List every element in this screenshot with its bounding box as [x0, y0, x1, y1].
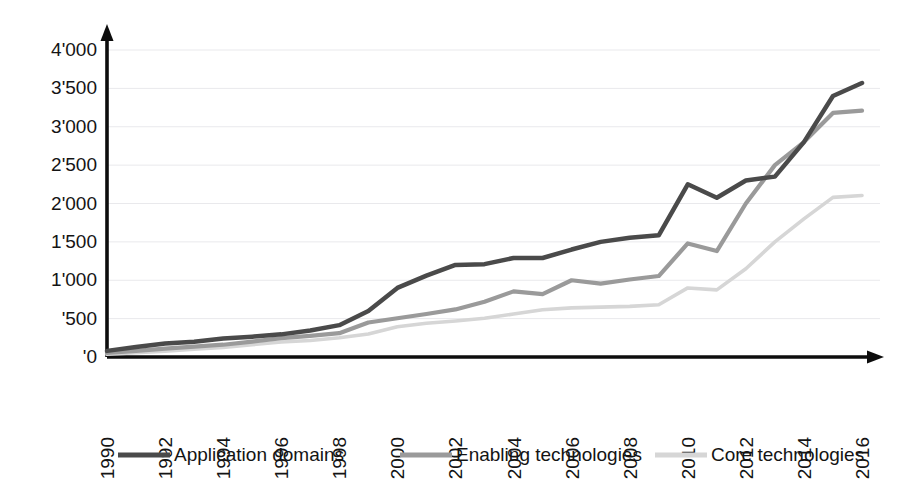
legend-label: Core technologies [711, 444, 864, 465]
y-axis-tick-label: 3'000 [51, 116, 97, 137]
x-axis-tick-label: 2000 [387, 437, 408, 479]
y-axis-tick-label: 2'000 [51, 193, 97, 214]
x-axis-tick-label: 1992 [155, 437, 176, 479]
legend-label: Application domains [174, 444, 344, 465]
chart-canvas: 4'0003'5003'0002'5002'0001'5001'000'500'… [0, 0, 904, 488]
y-axis-arrow-icon [101, 24, 114, 41]
y-axis-tick-label: 1'500 [51, 231, 97, 252]
y-axis-tick-label: 4'000 [51, 39, 97, 60]
y-axis-tick-label: '500 [62, 308, 97, 329]
series-group [107, 83, 862, 354]
y-axis-tick-label: 2'500 [51, 154, 97, 175]
x-axis-tick-label: 2010 [678, 437, 699, 479]
y-axis-tick-label: '0 [83, 346, 97, 367]
line-chart-figure: 4'0003'5003'0002'5002'0001'5001'000'500'… [0, 0, 904, 488]
series-line-core-technologies [107, 195, 862, 354]
y-axis-tick-label: 1'000 [51, 269, 97, 290]
gridlines-group [107, 50, 880, 319]
chart-legend: Application domainsEnabling technologies… [118, 444, 864, 465]
series-line-application-domains [107, 83, 862, 351]
y-axis [101, 24, 114, 357]
x-axis-tick-label: 1990 [97, 437, 118, 479]
y-axis-tick-labels: 4'0003'5003'0002'5002'0001'5001'000'500'… [51, 39, 97, 367]
y-axis-tick-label: 3'500 [51, 77, 97, 98]
x-axis-arrow-icon [867, 351, 884, 364]
x-axis [107, 351, 884, 364]
legend-label: Enabling technologies [456, 444, 642, 465]
